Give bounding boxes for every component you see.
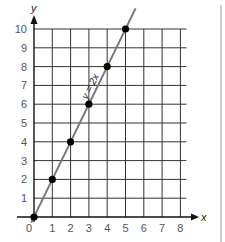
data-point xyxy=(49,176,56,183)
y-tick-label: 10 xyxy=(15,23,27,35)
data-point xyxy=(122,25,129,32)
axes xyxy=(17,15,199,222)
y-tick-label: 4 xyxy=(21,136,27,148)
x-axis-label: x xyxy=(200,211,207,223)
data-point xyxy=(104,63,111,70)
data-point xyxy=(67,138,74,145)
x-tick-label: 6 xyxy=(141,222,147,234)
y-tick-label: 6 xyxy=(21,98,27,110)
x-tick-label: 1 xyxy=(49,222,55,234)
x-axis-arrow-icon xyxy=(191,214,199,221)
series-line xyxy=(31,8,135,222)
x-tick-label: 7 xyxy=(159,222,165,234)
grid-lines xyxy=(34,29,186,217)
y-tick-label: 3 xyxy=(21,155,27,167)
y-tick-label: 2 xyxy=(21,173,27,185)
data-series xyxy=(30,8,135,222)
data-point xyxy=(30,213,37,220)
line-chart: 01234567812345678910 x y y = 2x xyxy=(0,0,225,242)
y-axis-arrow-icon xyxy=(31,15,38,24)
x-tick-label: 8 xyxy=(177,222,183,234)
x-tick-label: 5 xyxy=(122,222,128,234)
x-tick-label: 3 xyxy=(86,222,92,234)
y-tick-label: 5 xyxy=(21,117,27,129)
y-tick-label: 9 xyxy=(21,42,27,54)
data-point xyxy=(85,101,92,108)
x-tick-label: 2 xyxy=(68,222,74,234)
y-axis-label: y xyxy=(30,2,38,14)
y-tick-label: 7 xyxy=(21,79,27,91)
y-tick-label: 1 xyxy=(21,192,27,204)
x-tick-label: 4 xyxy=(104,222,110,234)
x-tick-label: 0 xyxy=(26,222,32,234)
y-tick-label: 8 xyxy=(21,61,27,73)
